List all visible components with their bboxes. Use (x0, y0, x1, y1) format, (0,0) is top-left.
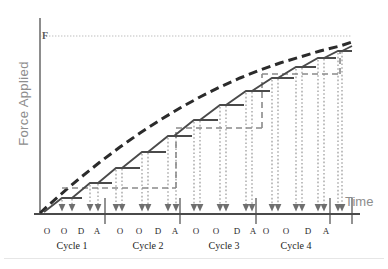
bottom-divider (4, 258, 384, 259)
phase-label-c3-d: D (234, 226, 241, 236)
phase-label-c4-o2: O (283, 226, 290, 236)
cycle-label-2: Cycle 2 (133, 240, 164, 251)
ooda-force-chart: Force Applied Time F O O D A O O D A O O… (0, 0, 388, 269)
cycle-label-3: Cycle 3 (209, 240, 240, 251)
phase-label-c1-a: A (94, 226, 101, 236)
phase-label-c1-o2: O (61, 226, 68, 236)
cycle-label-1: Cycle 1 (57, 240, 88, 251)
phase-label-c3-o2: O (213, 226, 220, 236)
x-axis-title: Time (345, 194, 373, 209)
phase-label-c2-o2: O (136, 226, 143, 236)
y-axis-title: Force Applied (16, 44, 31, 164)
phase-label-c3-o1: O (193, 226, 200, 236)
phase-label-c2-d: D (155, 226, 162, 236)
phase-label-c4-o1: O (263, 226, 270, 236)
phase-arrow-markers (59, 204, 346, 211)
phase-label-c1-d: D (78, 226, 85, 236)
cycle-label-4: Cycle 4 (281, 240, 312, 251)
phase-label-c4-a: A (323, 226, 330, 236)
force-step-curve (44, 46, 352, 212)
phase-label-c3-a: A (250, 226, 257, 236)
phase-label-c2-o1: O (117, 226, 124, 236)
phase-label-c1-o1: O (44, 226, 51, 236)
phase-label-c4-d: D (305, 226, 312, 236)
phase-label-c2-a: A (172, 226, 179, 236)
threshold-label: F (42, 30, 48, 41)
